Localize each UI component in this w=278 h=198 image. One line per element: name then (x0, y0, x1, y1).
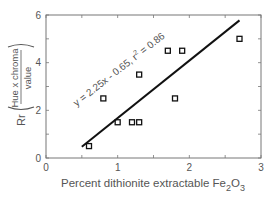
y-tick-label: 0 (35, 153, 41, 164)
data-point (87, 144, 92, 149)
data-point (137, 72, 142, 77)
x-label-main: Percent dithionite extractable Fe (61, 177, 226, 189)
data-points (87, 36, 243, 148)
x-label-sub2: 3 (240, 183, 245, 193)
data-point (137, 120, 142, 125)
y-label-numerator: Hue x chroma (9, 48, 20, 108)
x-axis-label: Percent dithionite extractable Fe2O3 (61, 177, 245, 193)
y-label-prefix: Rr (15, 114, 27, 126)
data-point (237, 36, 242, 41)
x-tick-label: 0 (43, 162, 49, 173)
x-label-mid: O (231, 177, 240, 189)
y-tick-label: 6 (35, 10, 41, 21)
right-paren-icon (8, 45, 34, 48)
x-tick-label: 2 (187, 162, 193, 173)
x-tick-label: 3 (258, 162, 264, 173)
scatter-chart: 01230246 y = 2.25x - 0.65, r2 = 0.86 Per… (0, 0, 278, 198)
data-point (130, 120, 135, 125)
x-tick-label: 1 (115, 162, 121, 173)
data-point (180, 48, 185, 53)
regression-annotation: y = 2.25x - 0.65, r2 = 0.86 (70, 29, 167, 108)
annotation-tail: = 0.86 (136, 30, 167, 58)
y-axis-label: Rr Hue x chroma value (8, 45, 34, 127)
y-label-denominator: value (22, 67, 33, 90)
data-point (101, 96, 106, 101)
y-tick-label: 2 (35, 105, 41, 116)
y-tick-label: 4 (35, 57, 41, 68)
data-point (173, 96, 178, 101)
data-point (165, 48, 170, 53)
